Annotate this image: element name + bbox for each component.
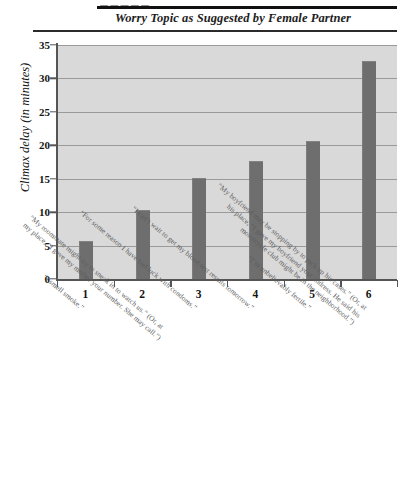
x-tick-label: 3	[196, 288, 202, 300]
y-tick-mark	[50, 78, 57, 79]
gridline	[57, 179, 397, 180]
y-tick-label: 20	[39, 139, 50, 151]
y-tick-label: 10	[39, 206, 50, 218]
x-tick-label: 4	[252, 288, 258, 300]
header-rule	[97, 6, 397, 9]
bar	[362, 61, 376, 279]
y-tick-mark	[50, 44, 57, 45]
x-tick-label: 2	[139, 288, 145, 300]
y-tick-label: 35	[39, 39, 50, 51]
gridline	[57, 45, 397, 46]
x-tick-label: 1	[82, 288, 88, 300]
y-tick-mark	[50, 178, 57, 179]
y-tick-mark	[50, 111, 57, 112]
chart-title: Worry Topic as Suggested by Female Partn…	[68, 11, 398, 26]
x-tick-label: 6	[366, 288, 372, 300]
title-underline-rule	[33, 30, 397, 32]
y-tick-label: 30	[39, 72, 50, 84]
gridline	[57, 78, 397, 79]
x-tick-mark	[397, 280, 398, 287]
figure-bar-chart: — — — — — Worry Topic as Suggested by Fe…	[0, 0, 408, 504]
y-tick-mark	[50, 211, 57, 212]
y-tick-label-group: 05101520253035	[0, 0, 50, 504]
y-tick-label: 25	[39, 106, 50, 118]
